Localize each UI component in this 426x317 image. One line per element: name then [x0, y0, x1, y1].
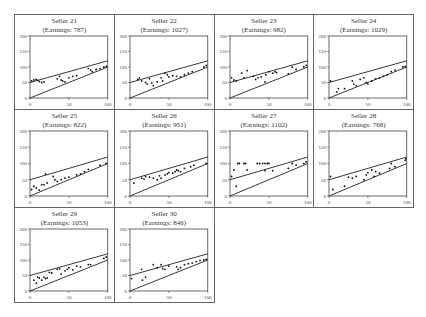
scatter-plot: 050100150200050100 — [314, 110, 415, 209]
data-point — [80, 173, 82, 175]
plot-area — [230, 36, 308, 98]
data-point — [60, 273, 62, 275]
data-point — [189, 166, 191, 168]
data-point — [183, 74, 185, 76]
y-tick-label: 100 — [319, 65, 327, 70]
data-point — [87, 168, 89, 170]
data-point — [177, 170, 179, 172]
data-point — [137, 79, 139, 81]
x-tick-label: 0 — [228, 200, 231, 205]
plot-area — [130, 36, 208, 98]
data-point — [240, 72, 242, 74]
y-tick-label: 150 — [119, 49, 127, 54]
x-tick-label: 0 — [328, 102, 331, 107]
data-point — [271, 170, 273, 172]
y-tick-label: 50 — [22, 80, 28, 85]
y-tick-label: 150 — [319, 145, 327, 150]
scatter-panel: Seller 25(Earnings: 822)0501001502000501… — [14, 109, 115, 208]
plot-area — [30, 131, 108, 196]
data-point — [158, 175, 160, 177]
data-point — [179, 267, 181, 269]
y-tick-label: 200 — [319, 129, 327, 134]
data-point — [258, 163, 260, 165]
data-point — [230, 176, 232, 178]
data-point — [160, 177, 162, 179]
data-point — [375, 171, 377, 173]
data-point — [105, 65, 107, 67]
data-point — [164, 268, 166, 270]
data-point — [148, 176, 150, 178]
x-tick-label: 100 — [403, 102, 411, 107]
y-tick-label: 0 — [25, 96, 28, 101]
data-point — [31, 189, 33, 191]
data-point — [133, 182, 135, 184]
data-point — [379, 172, 381, 174]
data-point — [166, 173, 168, 175]
scatter-plot: 050100150200050100 — [215, 110, 316, 209]
data-point — [332, 189, 334, 191]
data-point — [66, 268, 68, 270]
data-point — [76, 174, 78, 176]
data-point — [391, 163, 393, 165]
plot-area — [329, 36, 407, 98]
data-point — [394, 69, 396, 71]
data-point — [56, 268, 58, 270]
data-point — [68, 77, 70, 79]
data-point — [51, 272, 53, 274]
data-point — [261, 163, 263, 165]
data-point — [156, 267, 158, 269]
y-tick-label: 150 — [119, 145, 127, 150]
scatter-plot: 050100150200050100 — [115, 208, 216, 304]
data-point — [193, 164, 195, 166]
data-point — [38, 277, 40, 279]
data-point — [275, 72, 277, 74]
x-tick-label: 0 — [328, 200, 331, 205]
data-point — [230, 77, 232, 79]
data-point — [95, 69, 97, 71]
y-tick-label: 200 — [119, 129, 127, 134]
data-point — [130, 278, 132, 280]
data-point — [68, 176, 70, 178]
scatter-panel: Seller 22(Earnings: 1027)050100150200050… — [114, 14, 215, 110]
y-tick-label: 150 — [20, 49, 28, 54]
x-tick-label: 100 — [304, 102, 312, 107]
y-tick-label: 200 — [20, 129, 28, 134]
data-point — [43, 81, 45, 83]
y-tick-label: 50 — [122, 273, 128, 278]
data-point — [366, 174, 368, 176]
y-tick-label: 150 — [219, 145, 227, 150]
data-point — [168, 76, 170, 78]
y-tick-label: 50 — [321, 178, 327, 183]
data-point — [46, 277, 48, 279]
data-point — [41, 279, 43, 281]
data-point — [144, 82, 146, 84]
scatter-plot: 050100150200050100 — [115, 15, 216, 111]
y-tick-label: 100 — [219, 161, 227, 166]
data-point — [371, 169, 373, 171]
data-point — [205, 258, 207, 260]
y-tick-label: 0 — [324, 194, 327, 199]
data-point — [353, 83, 355, 85]
data-point — [64, 177, 66, 179]
y-tick-label: 0 — [224, 194, 227, 199]
data-point — [352, 80, 354, 82]
data-point — [305, 65, 307, 67]
data-point — [41, 184, 43, 186]
data-point — [199, 260, 201, 262]
data-point — [176, 266, 178, 268]
data-point — [373, 176, 375, 178]
data-point — [291, 66, 293, 68]
data-point — [379, 77, 381, 79]
data-point — [243, 163, 245, 165]
y-tick-label: 50 — [222, 178, 228, 183]
x-tick-label: 100 — [104, 295, 112, 300]
data-point — [156, 179, 158, 181]
data-point — [236, 163, 238, 165]
y-tick-label: 100 — [319, 161, 327, 166]
data-point — [264, 81, 266, 83]
scatter-plot: 050100150200050100 — [215, 15, 316, 111]
data-point — [252, 75, 254, 77]
data-point — [148, 78, 150, 80]
data-point — [56, 180, 58, 182]
y-tick-label: 150 — [319, 49, 327, 54]
